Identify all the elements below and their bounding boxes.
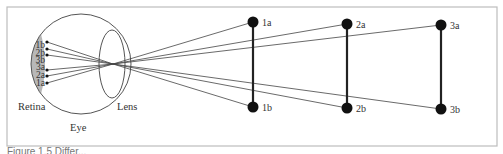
retina-point-3b — [45, 53, 48, 56]
ray-inner-2a — [47, 64, 113, 76]
retina-point-1b — [45, 40, 48, 43]
retina-label: Retina — [18, 101, 46, 112]
diagram-figure: 1a1b2a2b3a3b1b2b3b3a2a1aRetinaLensEye Fi… — [0, 0, 503, 154]
label-3b: 3b — [450, 104, 460, 115]
object-point-3b — [436, 104, 447, 115]
retina-point-2a — [45, 74, 48, 77]
eye-label: Eye — [70, 122, 87, 133]
label-2a: 2a — [356, 19, 366, 30]
object-point-2b — [342, 103, 353, 114]
ray-2b — [113, 64, 347, 108]
lens-label: Lens — [117, 101, 137, 112]
figure-caption: Figure 1.5 Differ... — [7, 147, 86, 154]
ray-2a — [113, 24, 347, 64]
label-1a: 1a — [262, 17, 272, 28]
ray-inner-1b — [47, 42, 113, 64]
ray-1a — [113, 22, 253, 64]
ray-3a — [113, 25, 441, 64]
ray-3b — [113, 64, 441, 109]
eye-projection-diagram: 1a1b2a2b3a3b1b2b3b3a2a1aRetinaLensEye — [0, 0, 503, 154]
objects — [248, 17, 447, 115]
object-point-3a — [436, 20, 447, 31]
retina-label-1a: 1a — [36, 78, 46, 88]
labels: 1a1b2a2b3a3b1b2b3b3a2a1aRetinaLensEye — [18, 17, 460, 133]
retina-point-2b — [45, 47, 48, 50]
retina-point-1a — [45, 81, 48, 84]
label-1b: 1b — [262, 102, 272, 113]
object-point-2a — [342, 19, 353, 30]
label-3a: 3a — [450, 20, 460, 31]
object-point-1b — [248, 102, 259, 113]
label-2b: 2b — [356, 103, 366, 114]
object-point-1a — [248, 17, 259, 28]
retina-point-3a — [45, 68, 48, 71]
